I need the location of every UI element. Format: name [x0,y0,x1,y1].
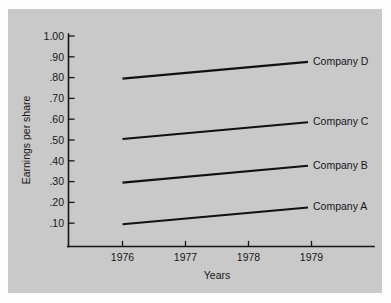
series-line-company-b [123,166,309,183]
x-axis-title: Years [204,269,230,281]
y-axis-tick-labels: 1.00 .90 .80 .70 .60 .50 .40 .30 .20 .10 [44,30,65,229]
x-axis-ticks [123,241,312,247]
y-tick-label: .20 [49,196,64,208]
x-axis-tick-labels: 1976 1977 1978 1979 [111,251,324,263]
series-line-company-a [123,208,309,225]
chart-panel: 1.00 .90 .80 .70 .60 .50 .40 .30 .20 .10… [8,9,382,293]
earnings-per-share-line-chart: 1.00 .90 .80 .70 .60 .50 .40 .30 .20 .10… [8,9,382,293]
series-line-company-d [123,62,309,79]
x-tick-label: 1979 [300,251,324,263]
series-label-company-b: Company B [313,159,368,171]
x-tick-label: 1976 [111,251,135,263]
y-tick-label: .70 [49,92,64,104]
y-tick-label: .90 [49,51,64,63]
series-label-company-d: Company D [313,55,369,67]
y-tick-label: .40 [49,155,64,167]
y-tick-label: .80 [49,71,64,83]
y-axis-title: Earnings per share [20,95,32,184]
y-tick-label: .30 [49,175,64,187]
series-label-company-a: Company A [313,200,367,212]
y-tick-label: .50 [49,134,64,146]
series-label-company-c: Company C [313,115,369,127]
x-tick-label: 1978 [237,251,261,263]
y-tick-label: 1.00 [44,30,65,42]
series-line-company-c [123,122,309,139]
y-axis-ticks [69,36,75,223]
y-tick-label: .10 [49,217,64,229]
chart-screenshot: 1.00 .90 .80 .70 .60 .50 .40 .30 .20 .10… [0,0,391,303]
x-tick-label: 1977 [174,251,198,263]
y-tick-label: .60 [49,113,64,125]
